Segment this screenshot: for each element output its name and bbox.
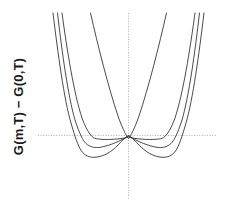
y-axis-label: G(m,T) − G(0,T): [0, 0, 36, 213]
landau-free-energy-figure: G(m,T) − G(0,T): [0, 0, 227, 213]
plot-area: [36, 0, 227, 213]
curve-below-tc-shallow: [58, 13, 200, 148]
plot-svg: [36, 0, 227, 213]
